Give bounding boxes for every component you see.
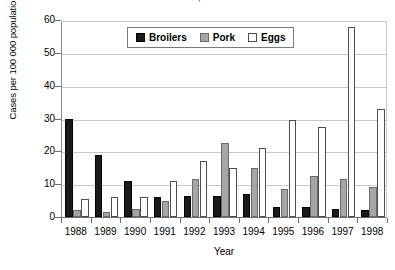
bar-pork-1992 bbox=[192, 179, 199, 217]
legend-label: Broilers bbox=[149, 33, 187, 43]
bar-pork-1991 bbox=[162, 201, 169, 217]
chart-figure: in Denmark, 1988-1998 Cases per 100 000 … bbox=[0, 0, 395, 270]
bar-broilers-1992 bbox=[184, 196, 191, 217]
x-tick-mark bbox=[298, 218, 299, 223]
chart-title: in Denmark, 1988-1998 bbox=[0, 0, 395, 2]
legend-label: Eggs bbox=[261, 33, 285, 43]
bar-pork-1994 bbox=[251, 168, 258, 217]
bar-broilers-1991 bbox=[154, 197, 161, 217]
y-tick-mark bbox=[55, 184, 61, 185]
y-tick-label: 50 bbox=[27, 48, 55, 58]
bar-pork-1998 bbox=[369, 187, 376, 217]
bar-eggs-1997 bbox=[348, 27, 355, 217]
gridline bbox=[62, 87, 386, 88]
bar-broilers-1995 bbox=[273, 207, 280, 217]
legend-item-eggs: Eggs bbox=[248, 33, 285, 43]
legend-swatch-icon bbox=[200, 33, 209, 42]
bar-broilers-1996 bbox=[302, 207, 309, 217]
x-tick-mark bbox=[387, 218, 388, 223]
bar-pork-1989 bbox=[103, 212, 110, 217]
gridline bbox=[62, 54, 386, 55]
x-tick-mark bbox=[120, 218, 121, 223]
x-tick-mark bbox=[209, 218, 210, 223]
bar-pork-1990 bbox=[132, 209, 139, 217]
x-tick-mark bbox=[150, 218, 151, 223]
bar-pork-1993 bbox=[221, 143, 228, 217]
bar-broilers-1994 bbox=[243, 194, 250, 217]
y-tick-label: 40 bbox=[27, 81, 55, 91]
y-tick-label: 20 bbox=[27, 146, 55, 156]
gridline bbox=[62, 120, 386, 121]
x-tick-mark bbox=[268, 218, 269, 223]
x-tick-mark bbox=[239, 218, 240, 223]
y-tick-label: 10 bbox=[27, 179, 55, 189]
legend-item-broilers: Broilers bbox=[136, 33, 187, 43]
gridline bbox=[62, 21, 386, 22]
x-tick-mark bbox=[91, 218, 92, 223]
bar-pork-1996 bbox=[310, 176, 317, 217]
bar-eggs-1993 bbox=[229, 168, 236, 217]
bar-eggs-1992 bbox=[200, 161, 207, 217]
y-tick-label: 60 bbox=[27, 15, 55, 25]
y-tick-label: 30 bbox=[27, 114, 55, 124]
x-tick-mark bbox=[180, 218, 181, 223]
bar-broilers-1990 bbox=[124, 181, 131, 217]
bar-broilers-1998 bbox=[361, 210, 368, 217]
x-tick-label-1998: 1998 bbox=[352, 226, 392, 237]
y-tick-mark bbox=[55, 86, 61, 87]
bar-pork-1997 bbox=[340, 179, 347, 217]
bar-eggs-1996 bbox=[318, 127, 325, 217]
chart-legend: BroilersPorkEggs bbox=[127, 27, 294, 48]
x-tick-mark bbox=[328, 218, 329, 223]
bar-eggs-1994 bbox=[259, 148, 266, 217]
bar-pork-1988 bbox=[73, 210, 80, 217]
y-axis-title: Cases per 100 000 population bbox=[7, 0, 18, 138]
bar-broilers-1988 bbox=[65, 119, 72, 218]
legend-swatch-icon bbox=[136, 33, 145, 42]
y-tick-label: 0 bbox=[27, 212, 55, 222]
y-tick-mark bbox=[55, 151, 61, 152]
x-axis-title: Year bbox=[61, 246, 387, 257]
bar-eggs-1991 bbox=[170, 181, 177, 217]
x-tick-mark bbox=[61, 218, 62, 223]
bar-broilers-1993 bbox=[213, 196, 220, 217]
bar-broilers-1989 bbox=[95, 155, 102, 217]
x-tick-mark bbox=[357, 218, 358, 223]
bar-eggs-1998 bbox=[377, 109, 384, 217]
bar-eggs-1995 bbox=[289, 120, 296, 217]
y-tick-mark bbox=[55, 119, 61, 120]
bar-broilers-1997 bbox=[332, 209, 339, 217]
bar-eggs-1988 bbox=[81, 199, 88, 217]
legend-item-pork: Pork bbox=[200, 33, 235, 43]
y-tick-mark bbox=[55, 20, 61, 21]
y-tick-mark bbox=[55, 53, 61, 54]
bar-eggs-1990 bbox=[140, 197, 147, 217]
legend-label: Pork bbox=[213, 33, 235, 43]
bar-pork-1995 bbox=[281, 189, 288, 217]
plot-area bbox=[61, 21, 387, 218]
bar-eggs-1989 bbox=[111, 197, 118, 217]
legend-swatch-icon bbox=[248, 33, 257, 42]
